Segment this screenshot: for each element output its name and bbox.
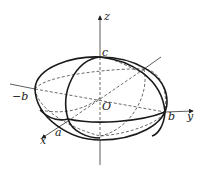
point-a-label: a <box>55 126 62 139</box>
ellipsoid-diagram: z y x O c −b b a <box>0 0 209 176</box>
origin-label: O <box>102 100 111 113</box>
x-axis-label: x <box>40 134 47 147</box>
z-axis-label: z <box>103 10 110 23</box>
point-b-label: b <box>168 110 175 123</box>
y-axis-label: y <box>186 110 194 123</box>
point-neg-b-label: −b <box>12 90 28 103</box>
point-c-label: c <box>102 46 108 59</box>
